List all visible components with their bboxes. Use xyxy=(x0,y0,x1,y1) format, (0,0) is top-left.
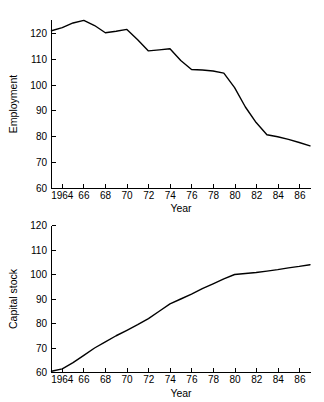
employment-xtick-3: 70 xyxy=(122,190,134,201)
capital-stock-xtick-4: 72 xyxy=(143,374,155,385)
employment-ytick-3: 90 xyxy=(36,105,48,116)
capital-stock-xtick-2: 68 xyxy=(100,374,112,385)
employment-xtick-9: 82 xyxy=(251,190,263,201)
capital-stock-xtick-7: 78 xyxy=(208,374,220,385)
employment-xtick-11: 86 xyxy=(294,190,306,201)
capital-stock-xtick-0: 1964 xyxy=(51,374,74,385)
employment-ytick-0: 60 xyxy=(36,183,48,194)
capital-stock-x-axis: 1964 66 68 70 72 74 76 78 80 82 84 86 Ye… xyxy=(51,368,311,399)
capital-stock-y-tick-labels: 60 70 80 90 100 110 120 xyxy=(30,220,47,378)
capital-stock-chart: 60 70 80 90 100 110 120 Capital stock xyxy=(0,210,324,402)
capital-stock-data-line xyxy=(52,265,311,372)
capital-stock-ytick-4: 100 xyxy=(30,269,47,280)
employment-xtick-2: 68 xyxy=(100,190,112,201)
capital-stock-y-ticks xyxy=(52,226,57,373)
capital-stock-xtick-6: 76 xyxy=(186,374,198,385)
capital-stock-xtick-1: 66 xyxy=(78,374,90,385)
capital-stock-ytick-5: 110 xyxy=(31,245,47,256)
employment-x-ticks xyxy=(62,184,300,189)
employment-xtick-5: 74 xyxy=(165,190,177,201)
employment-xtick-1: 66 xyxy=(78,190,90,201)
figure-container: 60 70 80 90 100 110 120 Employment xyxy=(0,0,324,402)
employment-xtick-7: 78 xyxy=(208,190,220,201)
employment-ytick-6: 120 xyxy=(30,28,47,39)
employment-ytick-4: 100 xyxy=(30,80,47,91)
capital-stock-xtick-10: 84 xyxy=(273,374,285,385)
employment-xtick-8: 80 xyxy=(230,190,242,201)
capital-stock-ytick-3: 90 xyxy=(36,294,48,305)
employment-chart: 60 70 80 90 100 110 120 Employment xyxy=(0,0,324,215)
employment-ytick-5: 110 xyxy=(31,54,47,65)
employment-xtick-6: 76 xyxy=(186,190,198,201)
capital-stock-ytick-1: 70 xyxy=(36,343,48,354)
capital-stock-xtick-3: 70 xyxy=(122,374,134,385)
capital-stock-xtick-9: 82 xyxy=(251,374,263,385)
capital-stock-x-axis-label: Year xyxy=(170,387,192,399)
employment-x-tick-labels: 1964 66 68 70 72 74 76 78 80 82 84 86 xyxy=(51,190,306,201)
employment-y-axis: 60 70 80 90 100 110 120 Employment xyxy=(7,20,56,194)
capital-stock-x-ticks xyxy=(62,368,300,373)
employment-xtick-10: 84 xyxy=(273,190,285,201)
employment-ytick-2: 80 xyxy=(36,131,48,142)
capital-stock-xtick-11: 86 xyxy=(294,374,306,385)
capital-stock-y-axis: 60 70 80 90 100 110 120 Capital stock xyxy=(7,220,56,378)
capital-stock-ytick-0: 60 xyxy=(36,367,48,378)
capital-stock-xtick-5: 74 xyxy=(165,374,177,385)
capital-stock-x-tick-labels: 1964 66 68 70 72 74 76 78 80 82 84 86 xyxy=(51,374,306,385)
employment-data-line xyxy=(52,20,311,145)
employment-y-ticks xyxy=(52,33,57,188)
employment-xtick-0: 1964 xyxy=(51,190,74,201)
employment-y-axis-label: Employment xyxy=(7,75,19,133)
capital-stock-xtick-8: 80 xyxy=(230,374,242,385)
employment-xtick-4: 72 xyxy=(143,190,155,201)
capital-stock-y-axis-label: Capital stock xyxy=(7,268,19,329)
employment-y-tick-labels: 60 70 80 90 100 110 120 xyxy=(30,28,47,194)
capital-stock-ytick-2: 80 xyxy=(36,318,48,329)
employment-ytick-1: 70 xyxy=(36,157,48,168)
capital-stock-ytick-6: 120 xyxy=(30,220,47,231)
